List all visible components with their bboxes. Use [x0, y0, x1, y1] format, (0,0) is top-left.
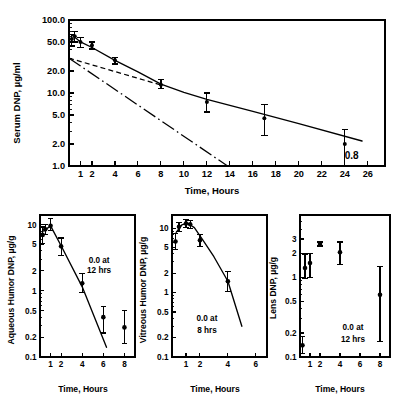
serum-marker	[90, 43, 94, 47]
aqueous-humor-y-tick-label: 10	[27, 221, 37, 230]
aqueous-data-points	[40, 218, 127, 343]
serum-x-tick-label: 1	[78, 169, 83, 179]
serum-x-tick-label: 26	[363, 169, 373, 179]
serum-y-tick-label: 10.0	[47, 88, 65, 98]
lens-marker	[378, 293, 383, 298]
vitreous-humor-annotation: 8 hrs	[197, 326, 217, 335]
lens-marker	[303, 266, 308, 271]
serum-y-tick-label: 5.0	[52, 110, 65, 120]
serum-solid-line	[72, 35, 362, 141]
aqueous-humor-marker	[80, 281, 85, 286]
serum-x-axis-title: Time, Hours	[185, 185, 240, 196]
aqueous-humor-x-tick-label: 1	[48, 360, 53, 369]
serum-marker	[343, 142, 347, 146]
aqueous-humor-marker	[59, 244, 64, 249]
lens-y-axis-title: Lens DNP, µg/g	[268, 257, 278, 319]
panel-aqueous-humor: 0.10.20.51251012468 0.0 at12 hrs Aqueous…	[6, 215, 135, 394]
aqueous-curves	[44, 226, 107, 347]
aqueous-x-axis-title: Time, Hours	[58, 384, 108, 394]
serum-y-tick-label: 2.0	[52, 139, 65, 149]
serum-frame-rect	[69, 20, 385, 166]
aqueous-humor-y-tick-label: 5	[32, 240, 37, 249]
aqueous-humor-x-tick-label: 4	[80, 360, 85, 369]
figure-root: 1.02.05.010.020.050.0100.012468101214161…	[0, 0, 400, 403]
aqueous-humor-data-point	[101, 306, 107, 333]
vitreous-humor-data-point	[176, 223, 182, 232]
vitreous-humor-annotation: 0.0 at	[196, 314, 217, 323]
serum-x-tick-label: 10	[179, 169, 189, 179]
serum-data-point	[261, 104, 267, 135]
vitreous-humor-data-point	[197, 234, 203, 246]
serum-annotations: 0.8	[345, 150, 359, 161]
aqueous-humor-y-tick-label: 1	[32, 287, 37, 296]
vitreous-humor-solid-line	[176, 223, 242, 326]
vitreous-humor-y-tick-label: 0.5	[157, 308, 169, 317]
serum-annotation: 0.8	[345, 150, 359, 161]
aqueous-humor-annotation: 12 hrs	[87, 266, 112, 275]
serum-x-tick-label: 4	[112, 169, 118, 179]
vitreous-humor-x-tick-label: 6	[254, 360, 259, 369]
lens-x-tick-label: 8	[378, 360, 383, 369]
lens-y-tick-label: 0.1	[285, 353, 297, 362]
vitreous-humor-marker	[173, 239, 178, 244]
serum-marker	[113, 58, 117, 62]
vitreous-humor-y-tick-label: 2	[164, 269, 169, 278]
serum-plot-frame	[69, 20, 385, 166]
vitreous-humor-marker	[177, 224, 182, 229]
aqueous-y-axis-title: Aqueous Humor DNP, µg/g	[6, 236, 16, 345]
aqueous-humor-data-point	[79, 273, 85, 292]
vitreous-humor-frame-rect	[172, 215, 267, 357]
lens-x-tick-label: 6	[358, 360, 363, 369]
aqueous-plot-frame	[40, 215, 135, 357]
serum-marker	[262, 116, 266, 120]
lens-y-tick-label: 2	[292, 249, 297, 258]
aqueous-humor-solid-line	[44, 226, 107, 347]
vitreous-x-axis-title: Time, Hours	[190, 384, 240, 394]
lens-y-tick-label: 3	[292, 235, 297, 244]
lens-marker	[300, 343, 305, 348]
aqueous-humor-x-tick-label: 6	[101, 360, 106, 369]
aqueous-humor-frame-rect	[40, 215, 135, 357]
aqueous-humor-y-tick-label: 0.2	[25, 333, 37, 342]
aqueous-annotations: 0.0 at12 hrs	[87, 256, 112, 275]
aqueous-humor-x-tick-label: 2	[59, 360, 64, 369]
panel-lens: 0.10.20.512312468 0.0 at12 hrs Lens DNP,…	[268, 215, 390, 394]
serum-x-tick-label: 6	[135, 169, 140, 179]
serum-y-tick-label: 100.0	[42, 15, 65, 25]
serum-x-tick-label: 2	[89, 169, 94, 179]
vitreous-humor-y-tick-label: 10	[159, 224, 169, 233]
lens-annotation: 12 hrs	[341, 335, 366, 344]
serum-x-tick-label: 24	[340, 169, 351, 179]
vitreous-data-points	[173, 220, 231, 291]
serum-x-tick-label: 14	[225, 169, 236, 179]
vitreous-curves	[176, 223, 242, 326]
aqueous-humor-marker	[48, 224, 53, 229]
vitreous-humor-y-tick-label: 1	[164, 288, 169, 297]
serum-x-tick-label: 22	[317, 169, 327, 179]
vitreous-humor-x-tick-label: 2	[198, 360, 203, 369]
aqueous-humor-y-tick-label: 2	[32, 267, 37, 276]
lens-y-tick-label: 1	[292, 273, 297, 282]
lens-x-axis-title: Time, Hours	[315, 384, 365, 394]
lens-x-tick-label: 2	[318, 360, 323, 369]
serum-marker	[73, 34, 77, 38]
serum-x-tick-label: 12	[202, 169, 212, 179]
aqueous-humor-data-point	[122, 311, 128, 344]
aqueous-humor-marker	[122, 325, 127, 330]
serum-x-tick-label: 8	[158, 169, 163, 179]
panel-vitreous-humor: 0.10.20.5125101246 0.0 at8 hrs Vitreous …	[138, 215, 267, 394]
pharmacokinetics-figure: 1.02.05.010.020.050.0100.012468101214161…	[0, 0, 400, 403]
serum-marker	[205, 100, 209, 104]
serum-x-tick-label: 18	[271, 169, 281, 179]
lens-marker	[308, 261, 313, 266]
vitreous-humor-marker	[184, 221, 189, 226]
aqueous-humor-annotation: 0.0 at	[89, 256, 110, 265]
vitreous-humor-marker	[188, 222, 193, 227]
serum-dashed-line	[69, 58, 163, 86]
lens-x-tick-label: 4	[338, 360, 343, 369]
vitreous-humor-marker	[198, 238, 203, 243]
lens-annotations: 0.0 at12 hrs	[341, 323, 366, 344]
vitreous-plot-frame	[172, 215, 267, 357]
aqueous-humor-y-tick-label: 0.5	[25, 307, 37, 316]
vitreous-annotations: 0.0 at8 hrs	[196, 314, 217, 334]
